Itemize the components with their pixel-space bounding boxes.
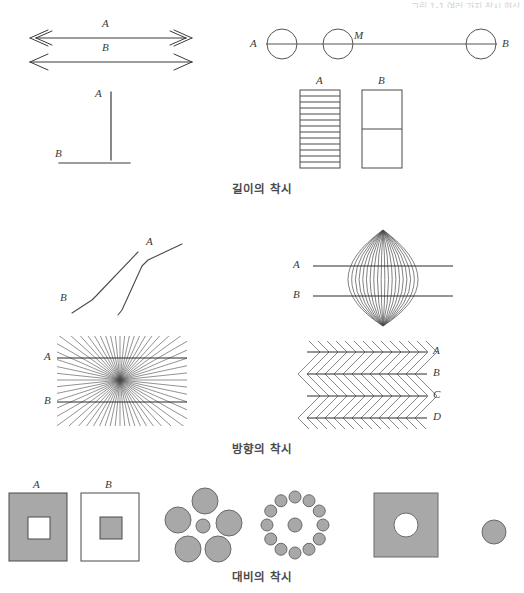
zollner-label-b: B bbox=[433, 367, 440, 378]
zollner-label-d: D bbox=[433, 411, 441, 422]
caption-direction-illusion: 방향의 착시 bbox=[0, 440, 524, 456]
illusion-figure-page: 그림 1-1 여러 가지 착시 현상 A B bbox=[0, 0, 524, 593]
nested-square-label-a: A bbox=[33, 479, 40, 490]
lens-label-b: B bbox=[293, 289, 300, 300]
zigzag-label-b: B bbox=[60, 292, 67, 303]
poggendorff-zigzag-illusion: A B bbox=[60, 230, 195, 320]
vertical-line-label-a: A bbox=[95, 88, 102, 99]
hering-label-b: B bbox=[44, 395, 51, 406]
muller-lyer-label-b: B bbox=[102, 42, 109, 53]
ebbinghaus-large-surround bbox=[165, 487, 245, 563]
striped-bar-label-a: A bbox=[316, 75, 323, 86]
zollner-label-a: A bbox=[433, 345, 440, 356]
zigzag-label-a: A bbox=[146, 236, 153, 247]
circles-on-line-illusion: A M B bbox=[250, 22, 515, 66]
page-header-bleed-text: 그림 1-1 여러 가지 착시 현상 bbox=[411, 0, 520, 8]
zollner-illusion: A B C D bbox=[305, 338, 435, 428]
ebbinghaus-small-surround bbox=[255, 487, 335, 563]
striped-bar-label-b: B bbox=[378, 75, 385, 86]
zollner-label-c: C bbox=[433, 389, 440, 400]
nested-squares-contrast-illusion: A B bbox=[8, 492, 148, 564]
lens-label-a: A bbox=[293, 259, 300, 270]
hering-label-a: A bbox=[44, 351, 51, 362]
horizontal-line-label-b: B bbox=[55, 148, 62, 159]
caption-length-illusion: 길이의 착시 bbox=[0, 180, 524, 196]
lone-gray-circle bbox=[480, 518, 510, 548]
circles-label-b: B bbox=[502, 38, 509, 49]
muller-lyer-illusion: A B bbox=[22, 18, 202, 74]
nested-square-label-b: B bbox=[105, 479, 112, 490]
caption-contrast-illusion: 대비의 착시 bbox=[0, 568, 524, 584]
circles-label-m: M bbox=[354, 30, 363, 41]
vertical-horizontal-illusion: A B bbox=[55, 88, 185, 168]
lens-convergence-illusion: A B bbox=[305, 228, 465, 328]
square-with-hole bbox=[373, 492, 443, 562]
muller-lyer-label-a: A bbox=[102, 18, 109, 29]
circles-label-a: A bbox=[250, 38, 257, 49]
hering-radiating-illusion: A B bbox=[57, 336, 187, 426]
striped-rectangles-illusion: A B bbox=[298, 88, 418, 170]
